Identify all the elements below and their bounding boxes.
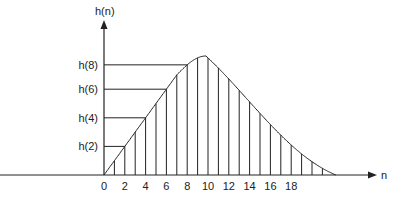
y-marker-label: h(6) bbox=[78, 83, 98, 95]
x-tick-label: 12 bbox=[223, 180, 235, 192]
x-tick-label: 14 bbox=[243, 180, 255, 192]
y-marker-label: h(4) bbox=[78, 112, 98, 124]
y-marker-labels: h(2)h(4)h(6)h(8) bbox=[78, 59, 98, 153]
x-tick-label: 4 bbox=[143, 180, 149, 192]
impulse-response-diagram: h(n) n 024681012141618 h(2)h(4)h(6)h(8) bbox=[0, 0, 393, 198]
y-axis-arrow-icon bbox=[101, 20, 108, 29]
x-tick-label: 18 bbox=[285, 180, 297, 192]
x-tick-label: 8 bbox=[184, 180, 190, 192]
x-tick-labels: 024681012141618 bbox=[101, 180, 297, 192]
x-tick-label: 0 bbox=[101, 180, 107, 192]
y-axis-label: h(n) bbox=[95, 5, 115, 17]
x-tick-label: 2 bbox=[122, 180, 128, 192]
y-marker-label: h(8) bbox=[78, 59, 98, 71]
x-axis-label: n bbox=[381, 169, 387, 181]
x-tick-label: 6 bbox=[163, 180, 169, 192]
x-tick-label: 16 bbox=[264, 180, 276, 192]
x-tick-label: 10 bbox=[202, 180, 214, 192]
sample-lines bbox=[114, 58, 322, 175]
y-marker-label: h(2) bbox=[78, 140, 98, 152]
x-axis-arrow-icon bbox=[368, 172, 377, 179]
